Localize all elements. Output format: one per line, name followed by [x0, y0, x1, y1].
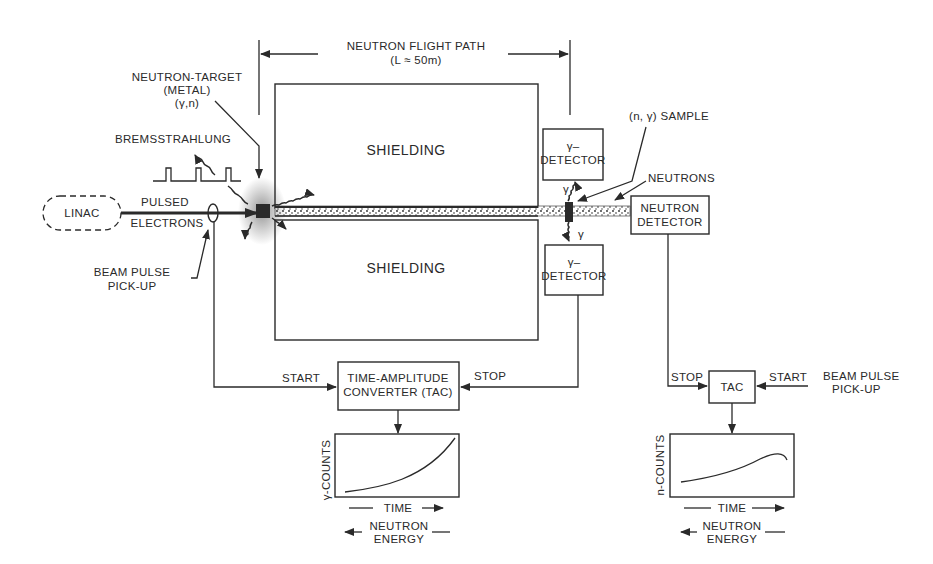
tac-main-start-label: START: [282, 372, 320, 384]
pickup-pointer: [191, 230, 208, 278]
linac-label: LINAC: [64, 207, 99, 219]
gamma-symbol-top: γ: [563, 183, 569, 195]
electron-pulse-train-icon: [153, 168, 241, 181]
flight-path-title: NEUTRON FLIGHT PATH: [347, 40, 486, 52]
plot-left-energy-line2: ENERGY: [374, 533, 424, 545]
gamma-detector-bottom-line1: γ–: [568, 256, 581, 268]
neutron-target-line3: (γ,n): [175, 97, 200, 109]
plot-right-xlabel: TIME: [718, 502, 747, 514]
plot-left-ylabel: γ-COUNTS: [320, 440, 332, 501]
electrons-label: ELECTRONS: [131, 217, 204, 229]
beam-pickup-left-line1: BEAM PULSE: [94, 266, 171, 278]
gamma-detector-top-line2: DETECTOR: [540, 154, 605, 166]
shielding-bottom-label: SHIELDING: [366, 260, 445, 276]
neutron-detector-line1: NEUTRON: [641, 202, 700, 214]
neutron-beam: [275, 206, 630, 216]
shielding-bottom-block: [275, 220, 538, 340]
beam-pickup-right-line1: BEAM PULSE: [823, 370, 900, 382]
plot-right-ylabel: n-COUNTS: [654, 434, 666, 495]
tac-main-line2: CONVERTER (TAC): [343, 386, 453, 398]
plot-left-energy-line1: NEUTRON: [370, 520, 429, 532]
neutron-stop-line: [668, 234, 707, 386]
pulsed-label: PULSED: [141, 196, 189, 208]
plot-right-energy-line2: ENERGY: [707, 533, 757, 545]
neutron-target: [238, 177, 286, 245]
plot-right-energy-line1: NEUTRON: [703, 520, 762, 532]
plot-right-frame: [670, 434, 794, 497]
tac-main-line1: TIME-AMPLITUDE: [347, 372, 448, 384]
beam-pickup-right-line2: PICK-UP: [832, 383, 881, 395]
neutron-target-line2: (METAL): [163, 84, 210, 96]
gamma-detector-bottom-line2: DETECTOR: [541, 270, 606, 282]
gamma-symbol-bottom: γ: [578, 228, 584, 240]
flight-path-length: (L ≈ 50m): [390, 54, 441, 66]
gamma-detector-top-line1: γ–: [567, 140, 580, 152]
tac-right-label: TAC: [720, 381, 743, 393]
sample-label: (n, γ) SAMPLE: [629, 110, 709, 122]
sample-block: [565, 202, 573, 222]
bremsstrahlung-label: BREMSSTRAHLUNG: [115, 133, 231, 145]
tac-main-stop-label: STOP: [474, 370, 506, 382]
neutron-detector-line2: DETECTOR: [637, 216, 702, 228]
tac-right-start-label: START: [769, 371, 807, 383]
beam-pickup-left-line2: PICK-UP: [108, 280, 157, 292]
gamma-to-top-detector-icon: [568, 182, 575, 201]
gamma-to-bottom-detector-icon: [568, 222, 569, 241]
plot-left-frame: [335, 434, 459, 497]
plot-left-xlabel: TIME: [384, 502, 413, 514]
target-block: [256, 204, 270, 218]
neutrons-label: NEUTRONS: [648, 172, 715, 184]
tac-right-stop-label: STOP: [671, 371, 703, 383]
neutron-target-line1: NEUTRON-TARGET: [132, 71, 243, 83]
shielding-top-label: SHIELDING: [366, 142, 445, 158]
neutron-tof-diagram: NEUTRON FLIGHT PATH (L ≈ 50m) SHIELDING …: [0, 0, 933, 564]
bremsstrahlung-wavy-arrow-icon: [195, 155, 215, 175]
